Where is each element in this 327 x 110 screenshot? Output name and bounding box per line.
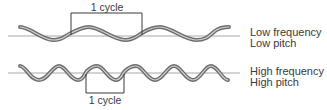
low-pitch-label: Low pitch [250,38,296,49]
high-pitch-label: High pitch [250,77,299,88]
low-frequency-wave [20,27,229,40]
low-frequency-cycle-label: 1 cycle [91,2,124,13]
high-frequency-cycle-label: 1 cycle [89,95,122,106]
wave-diagram [0,0,327,110]
high-frequency-cycle-bracket [86,74,124,93]
